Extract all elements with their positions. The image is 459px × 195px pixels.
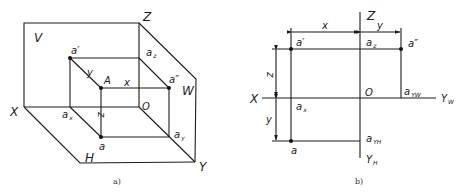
label-a: a [291,145,297,156]
dim-z: z [265,71,276,78]
caption-a: a) [113,177,121,186]
point-A [99,86,103,90]
label-a-double-prime: a″ [169,74,179,85]
dim-y: y [86,67,94,78]
label-H: H [85,151,94,165]
label-V: V [34,31,43,45]
point-a [289,139,293,143]
label-ax: ax [62,109,73,121]
label-A: A [103,75,111,86]
projection-diagram: V Z X Y W H O a′ A a″ a az ax ay x y z a… [0,0,459,195]
label-Z: Z [366,9,376,23]
label-a-double-prime: a″ [408,38,418,49]
label-X: X [9,105,19,119]
label-X: X [249,92,259,106]
point-a [99,135,103,139]
label-ayw: aYW [404,86,422,98]
label-a-prime: a′ [296,37,305,48]
label-ayh: aYH [366,133,382,145]
label-W: W [182,84,195,98]
label-az: az [366,37,377,49]
label-O: O [365,87,373,98]
label-a-prime: a′ [71,45,80,56]
label-a: a [99,141,105,152]
point-a-prime [289,47,293,51]
point-a-double-prime [399,47,403,51]
label-ay: ay [174,129,185,142]
label-ax: ax [296,101,307,113]
dim-y-top: y [376,20,384,31]
dim-x: x [321,20,328,31]
label-Z: Z [142,10,152,24]
point-a-double-prime [167,86,171,90]
label-Y: Y [199,160,208,174]
dim-y-left: y [265,114,273,125]
oy-axis [139,107,195,162]
dim-z: z [96,111,107,118]
proj-a-prime-A [70,58,101,88]
label-YH: YH [366,154,378,166]
dim-x: x [123,77,130,88]
point-a-prime [68,56,72,60]
label-O: O [142,101,150,112]
label-az: az [146,47,157,59]
figure-a-3d-projection: V Z X Y W H O a′ A a″ a az ax ay x y z a… [9,10,208,186]
label-YW: YW [441,93,455,105]
figure-b-orthographic-projection: Z X O YW YH a′ a″ a az ax aYW aYH x y z … [249,9,455,186]
proj-az-a-dprime [139,58,169,88]
caption-b: b) [355,177,363,186]
